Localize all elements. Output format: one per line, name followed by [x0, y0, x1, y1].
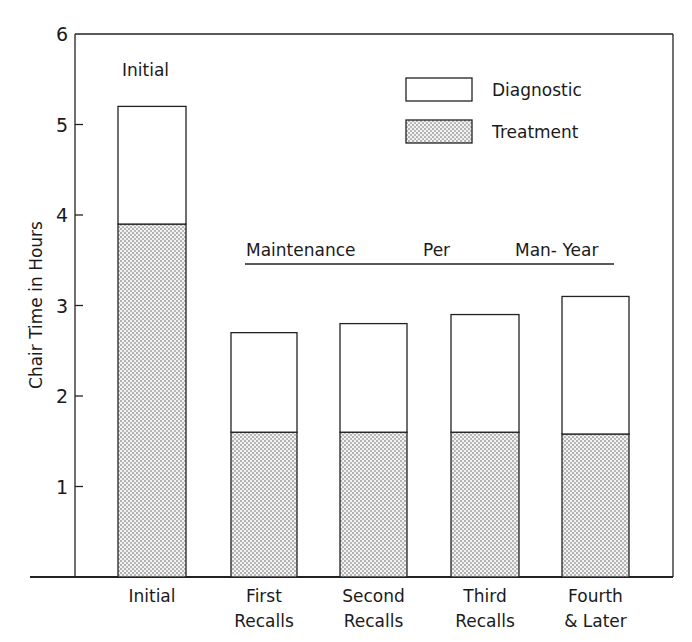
diagnostic-segment: [231, 333, 297, 433]
treatment-segment: [340, 432, 407, 577]
man-year-label: Man- Year: [515, 240, 598, 260]
y-axis: 123456: [56, 23, 83, 498]
diagnostic-segment: [562, 296, 629, 434]
bar-group: [451, 315, 519, 577]
x-tick-label: Initial: [128, 586, 175, 606]
x-axis-labels: InitialFirstRecallsSecondRecallsThirdRec…: [128, 586, 626, 631]
y-tick-label: 5: [56, 114, 68, 136]
x-tick-label: Fourth: [568, 586, 623, 606]
bar-group: [562, 296, 629, 577]
treatment-segment: [118, 224, 186, 577]
y-axis-label: Chair Time in Hours: [26, 221, 46, 389]
legend-label-diagnostic: Diagnostic: [492, 80, 582, 100]
diagnostic-segment: [118, 106, 186, 224]
legend-label-treatment: Treatment: [491, 122, 579, 142]
diagnostic-segment: [340, 324, 407, 433]
x-tick-label: Recalls: [344, 611, 404, 631]
x-tick-label: Recalls: [234, 611, 294, 631]
bar-group: [118, 106, 186, 577]
y-tick-label: 4: [56, 204, 68, 226]
legend: DiagnosticTreatment: [406, 78, 582, 143]
treatment-segment: [562, 434, 629, 577]
x-tick-label: First: [246, 586, 282, 606]
bar-group: [231, 333, 297, 577]
per-label: Per: [423, 240, 450, 260]
y-tick-label: 2: [56, 385, 68, 407]
x-tick-label: Second: [342, 586, 405, 606]
bars: [118, 106, 629, 577]
y-tick-label: 3: [56, 295, 68, 317]
y-tick-label: 6: [56, 23, 68, 45]
x-tick-label: Recalls: [455, 611, 515, 631]
bar-group: [340, 324, 407, 577]
legend-swatch-treatment: [406, 120, 472, 143]
treatment-segment: [231, 432, 297, 577]
x-tick-label: & Later: [564, 611, 627, 631]
y-tick-label: 1: [56, 476, 68, 498]
treatment-segment: [451, 432, 519, 577]
stacked-bar-chart: 123456 Chair Time in Hours InitialFirstR…: [0, 0, 692, 642]
diagnostic-segment: [451, 315, 519, 433]
legend-swatch-diagnostic: [406, 78, 472, 101]
maintenance-label: Maintenance: [246, 240, 355, 260]
x-tick-label: Third: [462, 586, 506, 606]
initial-annotation: Initial: [122, 60, 169, 80]
